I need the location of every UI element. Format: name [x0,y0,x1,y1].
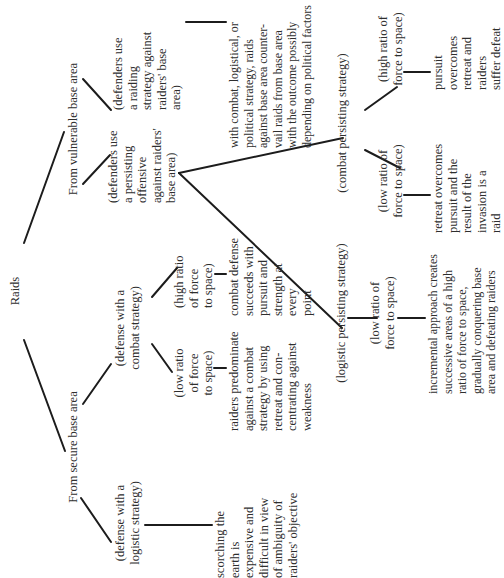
node-combat-persisting-low-ratio: (low ratio of force to space) [376,136,405,226]
node-raiding-outcome: with combat, logistical, or political st… [227,0,314,148]
edge-raids-vulnerable [24,132,64,243]
node-incremental-approach-outcome: incremental approach creates successive … [426,224,499,394]
node-raids: Raids [8,266,23,316]
node-defense-logistic-strategy: (defense with a logistic strategy) [113,468,142,578]
node-raiders-predominate-outcome: raiders predominate against a combat str… [227,301,314,431]
edge-secure-logistic [81,498,111,542]
edge-combat-low [152,344,172,372]
edge-raids-secure [24,340,65,451]
node-logistic-persisting-low-ratio: (low ratio of force to space) [368,268,397,358]
node-combat-defense-succeeds-outcome: combat defense succeeds with pursuit and… [227,206,314,316]
node-defenders-raiding-strategy: (defenders use a raiding strategy agains… [111,0,184,110]
node-from-vulnerable-base-area: From vulnerable base area [66,54,81,204]
node-scorching-earth-outcome: scorching the earth is expensive and dif… [213,458,300,578]
node-pursuit-overcomes-outcome: pursuit overcomes retreat and raiders su… [431,0,504,90]
node-combat-low-ratio: (low ratio of force to space) [172,338,216,408]
node-retreat-overcomes-outcome: retreat overcomes pursuit and the result… [431,123,504,233]
node-from-secure-base-area: From secure base area [66,382,81,512]
node-logistic-persisting-strategy: (logistic persisting strategy) [334,233,349,393]
node-combat-high-ratio: (high ratio of force to space) [172,228,216,308]
node-combat-persisting-high-ratio: (high ratio of force to space) [376,4,405,94]
node-defense-combat-strategy: (defense with a combat strategy) [113,273,142,383]
node-combat-persisting-strategy: (combat persisting strategy) [335,43,350,203]
edge-secure-combat [83,364,111,404]
